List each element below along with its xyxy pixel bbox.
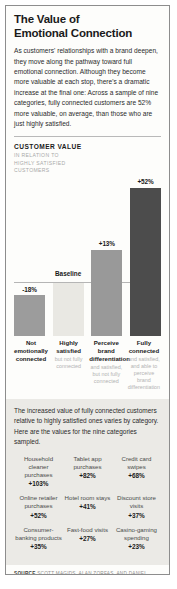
x-label-line: Perceive <box>89 339 123 347</box>
category-value: +23% <box>112 543 161 550</box>
x-label-line: Fully <box>127 339 161 347</box>
bar-value-label: +13% <box>91 240 122 247</box>
category-grid: Household cleaner purchases +103% Tablet… <box>14 455 161 558</box>
bar-column-not-emotionally-connected: -18% <box>14 178 45 336</box>
card-body: The Value of Emotional Connection As cus… <box>6 6 169 391</box>
bar-column-perceive-brand-differentiation: +13% <box>91 178 122 336</box>
bar-column-highly-satisfied: Baseline <box>53 178 84 336</box>
category-name: Online retailer purchases <box>14 494 63 510</box>
chart-subtitle: IN RELATION TO HIGHLY SATISFIED CUSTOMER… <box>14 152 161 174</box>
category-name: Hotel room stays <box>63 494 112 502</box>
infographic-card: The Value of Emotional Connection As cus… <box>5 5 170 575</box>
category-cell: Hotel room stays +41% <box>63 494 112 518</box>
baseline-label: Baseline <box>53 270 84 277</box>
divider <box>14 136 161 137</box>
category-name: Credit card swipes <box>112 455 161 471</box>
category-cell: Discount store visits +37% <box>112 494 161 518</box>
bar-fully-connected <box>130 188 161 336</box>
category-name: Discount store visits <box>112 494 161 510</box>
category-name: Fast-food visits <box>63 526 112 534</box>
category-cell: Casino-gaming spending +23% <box>112 526 161 550</box>
x-label-not-emotionally-connected: Not emotionally connected <box>14 339 48 391</box>
category-value: +68% <box>112 472 161 479</box>
category-value: +41% <box>63 503 112 510</box>
category-cell: Tablet app purchases +82% <box>63 455 112 488</box>
category-cell: Consumer-banking products +35% <box>14 526 63 550</box>
title-line-2: Emotional Connection <box>14 27 161 41</box>
x-label-line: emotionally <box>14 347 48 355</box>
category-name: Tablet app purchases <box>63 455 112 471</box>
category-value: +82% <box>63 472 112 479</box>
source-line: SOURCE SCOTT MAGIDS, ALAN ZORFAS, AND DA… <box>14 570 161 575</box>
x-label-line: differentiation <box>89 355 123 363</box>
x-label-line: connected <box>127 347 161 355</box>
category-name: Household cleaner purchases <box>14 455 63 480</box>
chart-x-axis-labels: Not emotionally connected Highly satisfi… <box>14 339 161 391</box>
bar-value-label: -18% <box>14 286 45 293</box>
category-value: +35% <box>14 543 63 550</box>
x-sublabel: but not fully connected <box>52 356 86 370</box>
category-values-panel: The increased value of fully connected c… <box>6 399 169 565</box>
category-cell: Fast-food visits +27% <box>63 526 112 550</box>
bar-not-emotionally-connected <box>14 295 45 336</box>
x-label-highly-satisfied: Highly satisfied but not fully connected <box>52 339 86 391</box>
chart-subtitle-line-2: HIGHLY SATISFIED <box>14 160 161 167</box>
x-label-line: connected <box>14 355 48 363</box>
category-value: +37% <box>112 512 161 519</box>
category-cell: Credit card swipes +68% <box>112 455 161 488</box>
x-label-fully-connected: Fully connected and satisfied, and able … <box>127 339 161 391</box>
deck-text: As customers' relationships with a brand… <box>14 46 161 129</box>
x-label-perceive-brand-differentiation: Perceive brand differentiation and satis… <box>89 339 123 391</box>
x-label-line: Not <box>14 339 48 347</box>
chart-plot-area: -18% Baseline +13% +52% <box>14 178 161 336</box>
category-name: Consumer-banking products <box>14 526 63 542</box>
footer: SOURCE SCOTT MAGIDS, ALAN ZORFAS, AND DA… <box>6 565 169 575</box>
page-title: The Value of Emotional Connection <box>14 13 161 40</box>
title-line-1: The Value of <box>14 13 161 27</box>
x-sublabel: and satisfied, but not fully connected <box>89 364 123 385</box>
category-name: Casino-gaming spending <box>112 526 161 542</box>
category-cell: Household cleaner purchases +103% <box>14 455 63 488</box>
bar-group: -18% Baseline +13% +52% <box>14 178 161 336</box>
category-value: +27% <box>63 535 112 542</box>
category-value: +103% <box>14 480 63 487</box>
chart-subtitle-line-3: CUSTOMERS <box>14 167 161 174</box>
category-value: +52% <box>14 512 63 519</box>
chart: CUSTOMER VALUE IN RELATION TO HIGHLY SAT… <box>14 143 161 391</box>
chart-subtitle-line-1: IN RELATION TO <box>14 152 161 159</box>
x-sublabel: and satisfied, and able to perceive bran… <box>127 356 161 391</box>
bar-value-label: +52% <box>130 178 161 185</box>
category-cell: Online retailer purchases +52% <box>14 494 63 518</box>
panel-intro-text: The increased value of fully connected c… <box>14 406 161 448</box>
bar-perceive-brand-differentiation <box>91 250 122 336</box>
bar-highly-satisfied <box>53 283 84 336</box>
source-label: SOURCE <box>14 571 36 575</box>
chart-title: CUSTOMER VALUE <box>14 143 161 150</box>
x-label-line: satisfied <box>52 347 86 355</box>
x-label-line: Highly <box>52 339 86 347</box>
bar-column-fully-connected: +52% <box>130 178 161 336</box>
x-label-line: brand <box>89 347 123 355</box>
